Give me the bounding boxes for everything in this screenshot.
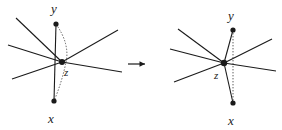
left-vertex-z	[59, 59, 65, 65]
left-edge-z-lower-right	[62, 62, 122, 72]
left-label-x: x	[48, 112, 54, 125]
right-edge-z-upper-left	[178, 29, 224, 63]
left-edge-z-upper-right	[62, 30, 118, 62]
right-edge-z-x	[224, 63, 233, 103]
transform-arrow-icon	[128, 61, 145, 67]
diagram-svg	[0, 0, 282, 130]
right-label-z: z	[214, 70, 218, 81]
right-edge-z-lower-right	[224, 63, 276, 71]
right-label-y: y	[228, 9, 234, 22]
left-label-y: y	[51, 2, 57, 15]
right-vertex-y	[230, 27, 235, 32]
figure-canvas: y z x y z x	[0, 0, 282, 130]
left-edge-y-x-vertical	[54, 24, 56, 101]
right-vertex-z	[221, 60, 227, 66]
right-panel-group	[170, 27, 276, 105]
right-edge-z-left	[170, 49, 224, 63]
right-edge-z-y	[224, 30, 233, 63]
right-vertex-x	[230, 100, 235, 105]
right-label-x: x	[228, 114, 234, 127]
left-panel-group	[8, 18, 122, 104]
left-vertex-x	[51, 98, 56, 103]
right-edge-z-upper-right	[224, 39, 272, 63]
left-label-z: z	[64, 67, 68, 78]
left-vertex-y	[53, 21, 58, 26]
